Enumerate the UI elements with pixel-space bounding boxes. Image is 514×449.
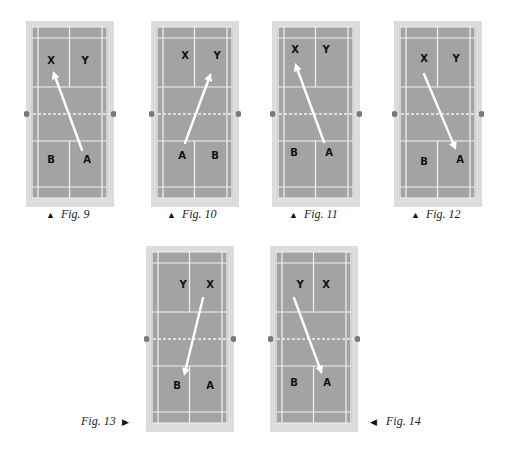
- player-b-label: B: [173, 381, 181, 391]
- triangle-right-icon: ▶: [122, 417, 129, 427]
- triangle-up-icon: ▲: [46, 210, 55, 220]
- court-diagram: [268, 246, 360, 434]
- triangle-up-icon: ▲: [167, 210, 176, 220]
- player-a-label: A: [83, 155, 91, 165]
- court-diagram: [24, 21, 116, 209]
- figure-10-caption: ▲ Fig. 10: [167, 207, 217, 222]
- player-x-label: X: [206, 280, 214, 290]
- figure-10-court: XYAB: [151, 21, 239, 221]
- player-b-label: B: [290, 148, 298, 158]
- figure-9-caption: ▲ Fig. 9: [46, 207, 90, 222]
- court-diagram: [270, 21, 362, 209]
- player-x-label: X: [322, 280, 330, 290]
- court-diagram: [392, 21, 484, 209]
- court-diagram: [144, 246, 236, 434]
- player-b-label: B: [290, 378, 298, 388]
- figure-12-caption: ▲ Fig. 12: [411, 207, 461, 222]
- player-a-label: A: [178, 151, 186, 161]
- court-diagram: [149, 21, 241, 209]
- player-b-label: B: [420, 157, 428, 167]
- player-x-label: X: [47, 56, 55, 66]
- player-a-label: A: [456, 155, 464, 165]
- player-y-label: Y: [322, 45, 329, 55]
- player-a-label: A: [325, 148, 333, 158]
- player-y-label: Y: [296, 280, 303, 290]
- triangle-left-icon: ◀: [370, 417, 377, 427]
- player-y-label: Y: [179, 280, 186, 290]
- figure-13-court: YXBA: [146, 246, 234, 436]
- player-x-label: X: [420, 54, 428, 64]
- figure-13-caption: Fig. 13 ▶: [81, 414, 129, 429]
- player-x-label: X: [291, 45, 299, 55]
- figure-12-court: XYBA: [394, 21, 482, 221]
- player-a-label: A: [206, 381, 214, 391]
- figure-11-court: XYBA: [272, 21, 360, 221]
- player-a-label: A: [323, 378, 331, 388]
- figure-9-court: XYBA: [26, 21, 114, 221]
- player-x-label: X: [181, 51, 189, 61]
- player-b-label: B: [47, 155, 55, 165]
- player-y-label: Y: [452, 54, 459, 64]
- figure-14-caption: ◀ Fig. 14: [370, 414, 421, 429]
- figure-14-court: YXBA: [270, 246, 358, 436]
- player-y-label: Y: [213, 51, 220, 61]
- triangle-up-icon: ▲: [411, 210, 420, 220]
- player-b-label: B: [211, 151, 219, 161]
- figure-11-caption: ▲ Fig. 11: [289, 207, 338, 222]
- triangle-up-icon: ▲: [289, 210, 298, 220]
- player-y-label: Y: [81, 56, 88, 66]
